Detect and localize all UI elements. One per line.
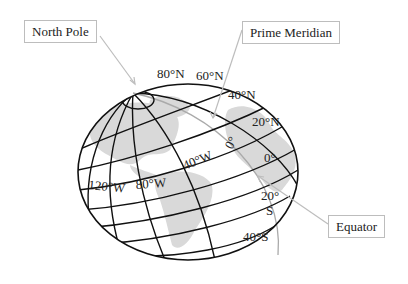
label-40n: 40°N	[228, 87, 256, 102]
label-0: 0°	[264, 150, 276, 165]
label-120w: 120°W	[88, 177, 127, 196]
equator-callout: Equator	[328, 215, 385, 238]
label-60n: 60°N	[196, 68, 224, 83]
globe-diagram: 80°N 60°N 40°N 20°N 0° 20° S 40°S 120°W …	[0, 0, 408, 284]
label-20s-bottom: S	[266, 203, 273, 218]
label-20s-top: 20°	[261, 188, 279, 203]
prime-meridian-callout: Prime Meridian	[242, 21, 340, 44]
label-20n: 20°N	[252, 114, 280, 129]
label-80n: 80°N	[157, 66, 185, 81]
north-pole-callout: North Pole	[24, 20, 97, 43]
label-40w: 40°W	[181, 147, 216, 173]
label-40s: 40°S	[243, 229, 268, 244]
north-pole-leader	[100, 36, 135, 84]
label-80w: 80°W	[135, 175, 167, 192]
